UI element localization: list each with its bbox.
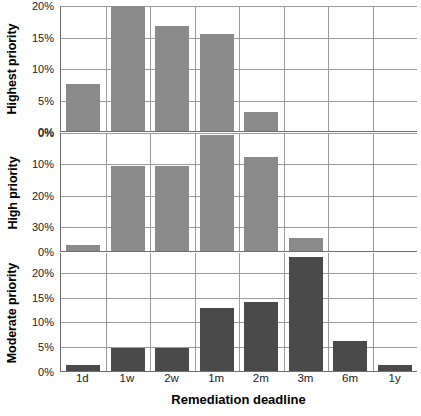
bar-slot-1m (195, 6, 240, 131)
bar-slot-1w (106, 6, 151, 131)
y-tick-label: 10% (32, 63, 54, 75)
x-tick-label-1d: 1d (60, 372, 105, 392)
x-tick-label-6m: 6m (328, 372, 373, 392)
panel-high-priority: High priority0%10%20%30%0% (0, 133, 421, 252)
bar-1w (111, 348, 145, 371)
y-tick-label: 5% (38, 95, 54, 107)
bar-slot-1w (106, 253, 151, 371)
bar-slot-6m (328, 6, 373, 131)
bar-2w (155, 26, 189, 131)
x-axis-ticklabels: 1d1w2w1m2m3m6m1y (60, 372, 417, 392)
y-axis-title: High priority (0, 133, 24, 252)
bar-slot-1y (373, 133, 418, 251)
y-axis-title-label: Moderate priority (5, 262, 19, 362)
bar-1y (378, 365, 412, 371)
y-tick-label: 0% (38, 366, 54, 378)
bar-slot-1w (106, 133, 151, 251)
bar-series (61, 6, 417, 131)
panel-highest-priority: Highest priority0%5%10%15%20% (0, 6, 421, 132)
bar-slot-6m (328, 133, 373, 251)
plot-inner (61, 133, 417, 251)
panel-moderate-priority: Moderate priority0%5%10%15%20% (0, 253, 421, 372)
y-tick-label: 30% (32, 221, 54, 233)
bar-slot-1m (195, 253, 240, 371)
bar-slot-2w (150, 253, 195, 371)
y-tick-label: 15% (32, 32, 54, 44)
bar-slot-2m (239, 253, 284, 371)
bar-slot-1m (195, 133, 240, 251)
plot-inner (61, 6, 417, 131)
bar-slot-2w (150, 6, 195, 131)
y-axis-title-label: Highest priority (5, 24, 19, 115)
bar-1m (200, 308, 234, 371)
x-tick-label-2m: 2m (239, 372, 284, 392)
bar-slot-2m (239, 6, 284, 131)
plot-inner (61, 253, 417, 371)
bar-2w (155, 166, 189, 251)
plot-area (60, 6, 417, 132)
bar-1m (200, 135, 234, 251)
bar-1m (200, 34, 234, 131)
plot-area (60, 253, 417, 372)
bar-slot-1d (61, 133, 106, 251)
x-axis-title: Remediation deadline (60, 392, 417, 407)
bar-slot-3m (284, 133, 329, 251)
x-tick-label-2w: 2w (149, 372, 194, 392)
x-tick-label-1y: 1y (372, 372, 417, 392)
x-tick-label-3m: 3m (283, 372, 328, 392)
bar-series (61, 253, 417, 371)
bar-slot-1y (373, 253, 418, 371)
y-axis-ticklabels: 0%10%20%30%0% (24, 133, 58, 252)
bar-1w (111, 6, 145, 131)
y-axis-title: Moderate priority (0, 253, 24, 372)
bar-slot-1d (61, 253, 106, 371)
y-tick-label: 15% (32, 292, 54, 304)
bar-2m (244, 302, 278, 371)
bar-2m (244, 112, 278, 131)
bar-series (61, 133, 417, 251)
bar-slot-1d (61, 6, 106, 131)
y-tick-label: 20% (32, 190, 54, 202)
x-tick-label-1w: 1w (105, 372, 150, 392)
y-tick-label: 20% (32, 0, 54, 12)
bar-1d (66, 365, 100, 371)
plot-area (60, 133, 417, 252)
y-axis-title: Highest priority (0, 6, 24, 132)
x-tick-label-1m: 1m (194, 372, 239, 392)
bar-3m (289, 257, 323, 371)
y-tick-label: 20% (32, 267, 54, 279)
bar-slot-3m (284, 253, 329, 371)
bar-1d (66, 84, 100, 131)
bar-2m (244, 157, 278, 251)
bar-6m (333, 341, 367, 371)
bar-slot-3m (284, 6, 329, 131)
bar-1d (66, 245, 100, 251)
y-tick-label: 10% (32, 158, 54, 170)
bar-slot-1y (373, 6, 418, 131)
remediation-deadline-chart: Highest priority0%5%10%15%20%High priori… (0, 0, 421, 416)
bar-2w (155, 348, 189, 371)
bar-3m (289, 238, 323, 251)
y-tick-label: 10% (32, 316, 54, 328)
y-tick-label: 0% (38, 127, 54, 139)
y-axis-ticklabels: 0%5%10%15%20% (24, 253, 58, 372)
y-axis-ticklabels: 0%5%10%15%20% (24, 6, 58, 132)
bar-slot-2w (150, 133, 195, 251)
bar-1w (111, 166, 145, 251)
bar-slot-6m (328, 253, 373, 371)
bar-slot-2m (239, 133, 284, 251)
y-axis-title-label: High priority (5, 156, 19, 229)
y-tick-label: 5% (38, 341, 54, 353)
